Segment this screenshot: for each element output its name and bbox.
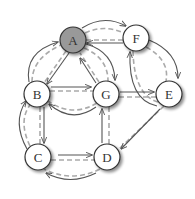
- node-c-label: C: [34, 150, 43, 165]
- dashed-path-c-b: [24, 105, 30, 146]
- dashed-path-f-e: [146, 47, 167, 81]
- nodes: A F B G E C D: [24, 25, 182, 170]
- node-e-label: E: [165, 87, 173, 102]
- edge-c-to-b: [19, 101, 27, 149]
- edge-f-to-e: [149, 40, 178, 78]
- node-b-label: B: [33, 87, 42, 102]
- dashed-path-e-f: [133, 51, 158, 102]
- node-a-label: A: [68, 33, 78, 48]
- edge-g-to-a: [80, 58, 96, 83]
- edge-a-to-b: [47, 53, 69, 84]
- node-g-label: G: [101, 87, 110, 102]
- node-f-label: F: [132, 31, 139, 46]
- edge-e-to-d: [121, 109, 160, 149]
- node-d-label: D: [102, 150, 111, 165]
- dashed-path-a-b: [44, 51, 66, 83]
- graph-diagram: A F B G E C D: [0, 0, 195, 199]
- dashed-path-g-a: [80, 53, 99, 82]
- dashed-path-a-f: [85, 29, 124, 34]
- edge-a-to-f: [82, 20, 126, 28]
- dashed-path-b-a: [32, 45, 61, 82]
